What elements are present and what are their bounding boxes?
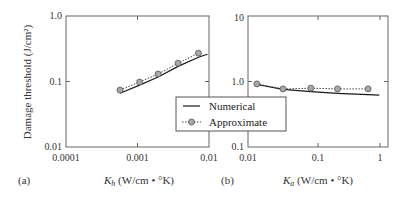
y-tick-label: 1.0 (232, 76, 245, 87)
y-axis-title: Damage threshold (J/cm²) (21, 24, 34, 139)
legend-approximate-marker (189, 119, 195, 125)
legend-numerical-label: Numerical (209, 100, 255, 112)
panel-a-series (117, 50, 207, 93)
data-point-marker (137, 79, 143, 85)
numerical-line (257, 85, 379, 96)
x-tick-label: 0.01 (239, 152, 257, 163)
legend-approximate-label: Approximate (209, 116, 267, 128)
data-point-marker (254, 81, 260, 87)
data-point-marker (308, 85, 314, 91)
data-point-marker (280, 86, 286, 92)
y-tick-label: 1.0 (50, 10, 63, 21)
y-tick-label: 0.01 (45, 141, 63, 152)
data-point-marker (175, 60, 181, 66)
data-point-marker (155, 71, 161, 77)
x-axis-title: Kh (W/cm • °K) (103, 174, 174, 188)
panel-b-series (254, 81, 379, 95)
legend: Numerical Approximate (176, 97, 286, 131)
x-tick-label: 0.1 (312, 152, 325, 163)
y-tick-label: 10 (234, 12, 244, 23)
x-axis-title: Ka (W/cm • °K) (282, 174, 353, 188)
x-tick-label: 0.0001 (52, 152, 80, 163)
data-point-marker (117, 87, 123, 93)
data-point-marker (365, 86, 371, 92)
x-tick-label: 1 (378, 152, 383, 163)
data-point-marker (195, 50, 201, 56)
data-point-marker (335, 86, 341, 92)
y-tick-label: 0.1 (50, 76, 63, 87)
panel-label-b: (b) (221, 174, 234, 187)
panel-label-a: (a) (18, 174, 31, 187)
y-tick-label: 0.1 (232, 141, 245, 152)
x-tick-label: 0.001 (126, 152, 149, 163)
figure: 1.0 0.1 0.01 0.0001 0.001 0.01 Damage th… (0, 0, 407, 198)
numerical-line (120, 54, 207, 93)
x-tick-label: 0.01 (200, 152, 218, 163)
